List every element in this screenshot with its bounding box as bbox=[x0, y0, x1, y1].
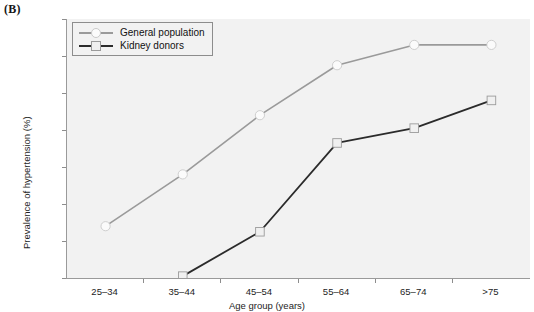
data-point-circle bbox=[178, 170, 187, 179]
data-point-square bbox=[256, 227, 265, 236]
x-tick-label: 35–44 bbox=[147, 286, 217, 297]
legend-marker-circle-icon bbox=[91, 28, 101, 38]
legend-marker-square-icon bbox=[91, 41, 101, 51]
series-line bbox=[183, 100, 492, 276]
y-tick-mark bbox=[62, 130, 66, 131]
data-point-square bbox=[410, 124, 419, 133]
data-point-circle bbox=[410, 40, 419, 49]
legend-label: General population bbox=[120, 27, 205, 38]
legend-label: Kidney donors bbox=[120, 40, 184, 51]
y-tick-mark bbox=[62, 241, 66, 242]
data-point-circle bbox=[101, 222, 110, 231]
chart-legend: General populationKidney donors bbox=[72, 22, 213, 56]
plot-area bbox=[66, 19, 530, 279]
x-tick-mark bbox=[452, 279, 453, 283]
x-tick-label: >75 bbox=[455, 286, 525, 297]
series-kidney-donors bbox=[178, 96, 495, 278]
data-point-circle bbox=[332, 61, 341, 70]
y-axis: 010203040506070 bbox=[0, 0, 66, 312]
y-tick-mark bbox=[62, 278, 66, 279]
x-tick-label: 25–34 bbox=[70, 286, 140, 297]
plot-lines-svg bbox=[67, 19, 530, 278]
legend-item-general-population: General population bbox=[77, 26, 205, 39]
y-tick-mark bbox=[62, 19, 66, 20]
legend-key-swatch bbox=[77, 27, 115, 38]
x-tick-mark bbox=[375, 279, 376, 283]
data-point-square bbox=[333, 139, 342, 148]
series-general-population bbox=[101, 40, 496, 230]
x-tick-mark bbox=[143, 279, 144, 283]
legend-key-swatch bbox=[77, 40, 115, 51]
y-tick-mark bbox=[62, 204, 66, 205]
x-tick-label: 45–54 bbox=[224, 286, 294, 297]
x-axis-title: Age group (years) bbox=[0, 300, 534, 311]
data-point-circle bbox=[487, 40, 496, 49]
x-tick-label: 65–74 bbox=[378, 286, 448, 297]
legend-item-kidney-donors: Kidney donors bbox=[77, 39, 205, 52]
figure-panel-b: (B) 010203040506070 Prevalence of hypert… bbox=[0, 0, 534, 312]
series-line bbox=[106, 45, 492, 226]
x-tick-label: 55–64 bbox=[301, 286, 371, 297]
y-tick-mark bbox=[62, 56, 66, 57]
y-tick-mark bbox=[62, 167, 66, 168]
data-point-square bbox=[487, 96, 496, 105]
x-tick-mark bbox=[298, 279, 299, 283]
data-point-square bbox=[178, 272, 187, 278]
y-tick-mark bbox=[62, 93, 66, 94]
y-axis-title: Prevalence of hypertension (%) bbox=[21, 116, 32, 249]
x-tick-mark bbox=[220, 279, 221, 283]
data-point-circle bbox=[255, 111, 264, 120]
